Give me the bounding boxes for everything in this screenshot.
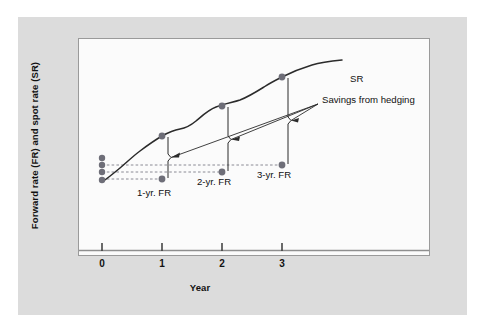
spot-rate-series-label: SR <box>350 73 363 84</box>
chart-canvas: SR Savings from hedging 1-yr. FR 2-yr. F… <box>0 0 485 332</box>
year0-rate-dot-1 <box>99 155 105 161</box>
savings-leader-line-1yr <box>171 104 318 158</box>
x-axis-group <box>79 243 429 251</box>
savings-leader-lines <box>171 104 318 158</box>
spot-rate-marker-year2 <box>219 103 226 110</box>
year0-rate-markers <box>99 155 105 183</box>
spot-rate-curve <box>102 60 342 182</box>
forward-rate-label-3yr: 3-yr. FR <box>257 169 291 180</box>
spot-rate-marker-year3 <box>279 74 286 81</box>
savings-arrowhead-1yr <box>171 153 180 158</box>
forward-rate-label-2yr: 2-yr. FR <box>197 176 231 187</box>
year0-rate-dot-2 <box>99 162 105 168</box>
savings-bracket-3yr <box>288 78 291 164</box>
savings-from-hedging-label: Savings from hedging <box>322 94 415 105</box>
chart-figure: Forward rate (FR) and spot rate (SR) Yea… <box>0 0 485 332</box>
year0-rate-dot-3 <box>99 169 105 175</box>
savings-leader-line-2yr <box>231 104 318 140</box>
forward-rate-marker-3yr <box>279 162 286 169</box>
savings-bracket-2yr <box>228 107 231 171</box>
forward-rate-marker-1yr <box>159 176 166 183</box>
spot-rate-marker-year1 <box>159 133 166 140</box>
forward-rate-marker-2yr <box>219 169 226 176</box>
forward-rate-label-1yr: 1-yr. FR <box>137 187 171 198</box>
savings-arrowhead-3yr <box>291 118 299 123</box>
dashed-connector-group <box>102 165 282 179</box>
year0-rate-dot-4 <box>99 177 105 183</box>
